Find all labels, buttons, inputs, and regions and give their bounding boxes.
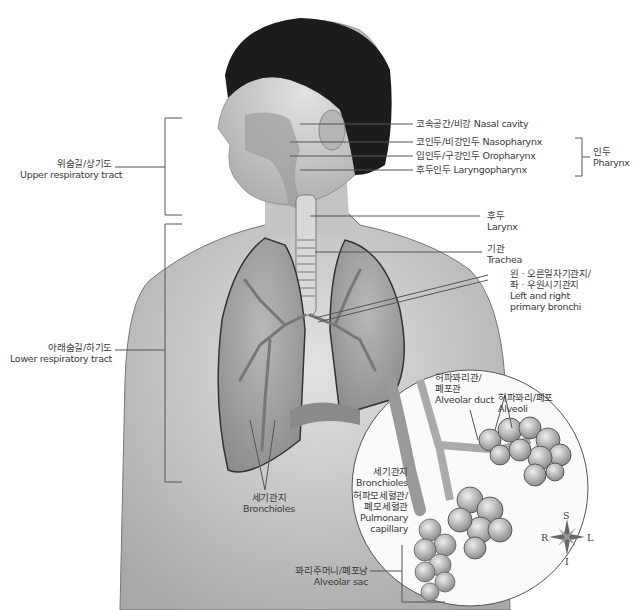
bronchioles-inset-ko: 세기관지 — [340, 466, 408, 477]
alveolar-sac-label: 꽈리주머니/폐포낭 Alveolar sac — [270, 565, 368, 587]
primary-bronchi-en2: primary bronchi — [510, 301, 591, 312]
alveolar-duct-ko1: 허파꽈리관/ — [435, 372, 494, 383]
laryngopharynx-label: 후두인두 Laryngopharynx — [416, 164, 527, 175]
upper-tract-ko: 위숨길/상기도 — [20, 158, 112, 169]
oropharynx-label: 입인두/구강인두 Oropharynx — [416, 150, 536, 161]
primary-bronchi-ko2: 좌 · 우원시기관지 — [510, 279, 591, 290]
pharynx-label: 인두 Pharynx — [593, 146, 630, 168]
trachea-label: 기관 Trachea — [487, 243, 522, 265]
compass-inferior: I — [565, 556, 568, 567]
larynx-en: Larynx — [487, 221, 518, 232]
bronchioles-lung-ko: 세기관지 — [243, 492, 295, 503]
alveoli-ko: 허파꽈리/폐포 — [498, 392, 553, 403]
pulmonary-capillary-ko1: 허파모세혈관/ — [330, 490, 408, 501]
pharynx-bracket — [575, 138, 582, 176]
pharynx-ko: 인두 — [593, 146, 630, 157]
compass-left: L — [587, 532, 593, 543]
nasal-cavity-label: 코속공간/비강 Nasal cavity — [416, 118, 528, 129]
larynx-ko: 후두 — [487, 210, 518, 221]
upper-tract-bracket — [165, 118, 182, 215]
alveolar-duct-ko2: 폐포관 — [435, 383, 494, 394]
nasopharynx-label: 코인두/비강인두 Nasopharynx — [416, 136, 542, 147]
pulmonary-capillary-ko2: 폐모세혈관 — [330, 501, 408, 512]
compass-superior: S — [563, 510, 569, 521]
primary-bronchi-ko1: 왼 · 오른일차기관지/ — [510, 268, 591, 279]
primary-bronchi-en1: Left and right — [510, 290, 591, 301]
alveolar-duct-label: 허파꽈리관/ 폐포관 Alveolar duct — [435, 372, 494, 405]
trachea-en: Trachea — [487, 254, 522, 265]
upper-tract-en: Upper respiratory tract — [20, 169, 112, 180]
compass-right: R — [541, 532, 548, 543]
bronchioles-inset-en: Bronchioles — [340, 477, 408, 488]
alveolar-duct-en: Alveolar duct — [435, 394, 494, 405]
bronchioles-inset-label: 세기관지 Bronchioles — [340, 466, 408, 488]
alveolar-sac-en: Alveolar sac — [270, 576, 368, 587]
alveoli-en: Alveoli — [498, 403, 553, 414]
pharynx-en: Pharynx — [593, 157, 630, 168]
larynx-label: 후두 Larynx — [487, 210, 518, 232]
primary-bronchi-label: 왼 · 오른일차기관지/ 좌 · 우원시기관지 Left and right p… — [510, 268, 591, 312]
alveolar-sac-ko: 꽈리주머니/폐포낭 — [270, 565, 368, 576]
lower-tract-en: Lower respiratory tract — [10, 353, 112, 364]
lower-tract-label: 아래숨길/하기도 Lower respiratory tract — [10, 342, 112, 364]
upper-tract-label: 위숨길/상기도 Upper respiratory tract — [20, 158, 112, 180]
lower-tract-ko: 아래숨길/하기도 — [10, 342, 112, 353]
alveoli-label: 허파꽈리/폐포 Alveoli — [498, 392, 553, 414]
trachea-ko: 기관 — [487, 243, 522, 254]
bronchioles-lung-en: Bronchioles — [243, 503, 295, 514]
pulmonary-capillary-en2: capillary — [330, 523, 408, 534]
bronchioles-lung-label: 세기관지 Bronchioles — [243, 492, 295, 514]
pulmonary-capillary-en1: Pulmonary — [330, 512, 408, 523]
pulmonary-capillary-label: 허파모세혈관/ 폐모세혈관 Pulmonary capillary — [330, 490, 408, 534]
